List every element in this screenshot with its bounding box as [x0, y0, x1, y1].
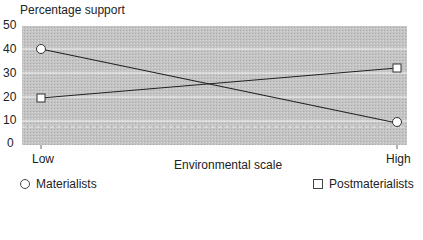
- legend-postmaterialists-label: Postmaterialists: [329, 177, 414, 191]
- postmaterialists-low-marker: [37, 94, 45, 102]
- materialists-low-marker: [37, 45, 46, 54]
- legend-materialists: Materialists: [20, 177, 97, 191]
- circle-marker-icon: [20, 179, 30, 189]
- legend-postmaterialists: Postmaterialists: [313, 177, 414, 191]
- materialists-high-marker: [393, 118, 402, 127]
- postmaterialists-high-marker: [393, 64, 401, 72]
- square-marker-icon: [313, 179, 323, 189]
- x-tick-high: High: [386, 152, 411, 166]
- legend-materialists-label: Materialists: [36, 177, 97, 191]
- x-axis-title: Environmental scale: [174, 158, 282, 172]
- x-tick-low: Low: [32, 152, 54, 166]
